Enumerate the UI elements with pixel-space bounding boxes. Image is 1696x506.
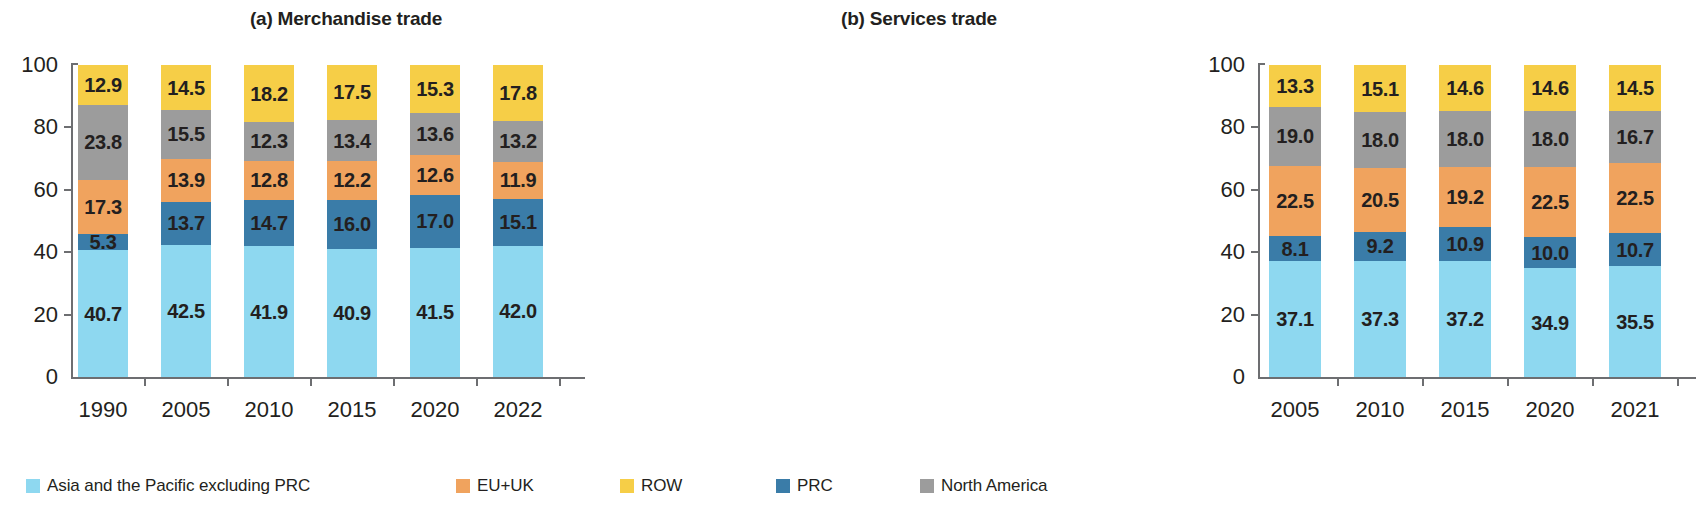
- bar-segment-eu_uk[interactable]: 12.2: [327, 161, 377, 199]
- bar-segment-north_america[interactable]: 13.6: [410, 113, 460, 155]
- bar-segment-ap_ex_prc[interactable]: 41.5: [410, 248, 460, 377]
- bar-segment-eu_uk[interactable]: 17.3: [78, 180, 128, 234]
- bar-segment-eu_uk[interactable]: 12.6: [410, 155, 460, 194]
- y-axis-tick: [1251, 189, 1258, 191]
- bar-segment-ap_ex_prc[interactable]: 42.5: [161, 245, 211, 377]
- bar-segment-north_america[interactable]: 16.7: [1609, 111, 1661, 163]
- legend-item-north_america[interactable]: North America: [920, 474, 1047, 498]
- bar-segment-eu_uk[interactable]: 12.8: [244, 161, 294, 201]
- x-axis-tick: [1592, 378, 1594, 386]
- bar-segment-prc[interactable]: 14.7: [244, 200, 294, 246]
- bar-segment-eu_uk[interactable]: 22.5: [1609, 163, 1661, 233]
- x-axis-line: [71, 377, 585, 379]
- bar-segment-prc[interactable]: 10.7: [1609, 233, 1661, 266]
- bar-segment-row[interactable]: 14.5: [161, 65, 211, 110]
- bar-segment-north_america[interactable]: 18.0: [1354, 112, 1406, 168]
- bar-segment-row[interactable]: 13.3: [1269, 65, 1321, 106]
- bar-segment-value-label: 9.2: [1367, 236, 1394, 256]
- bar-segment-row[interactable]: 17.5: [327, 65, 377, 120]
- x-axis-category-label: 2015: [307, 397, 397, 423]
- bar-segment-ap_ex_prc[interactable]: 35.5: [1609, 266, 1661, 377]
- bar-segment-prc[interactable]: 15.1: [493, 199, 543, 246]
- bar-segment-ap_ex_prc[interactable]: 40.7: [78, 250, 128, 377]
- y-axis-tick-label: 80: [1221, 114, 1245, 140]
- stacked-bar[interactable]: 40.916.012.213.417.52015: [327, 65, 377, 377]
- legend-item-prc[interactable]: PRC: [776, 474, 833, 498]
- bar-segment-row[interactable]: 12.9: [78, 65, 128, 105]
- bar-segment-value-label: 23.8: [84, 132, 122, 152]
- y-axis-tick-label: 100: [1208, 52, 1245, 78]
- stacked-bar[interactable]: 42.513.713.915.514.52005: [161, 65, 211, 377]
- bar-segment-north_america[interactable]: 13.4: [327, 120, 377, 162]
- legend-item-eu_uk[interactable]: EU+UK: [456, 474, 534, 498]
- bar-segment-value-label: 13.7: [167, 213, 205, 233]
- bar-segment-ap_ex_prc[interactable]: 37.3: [1354, 261, 1406, 377]
- stacked-bar[interactable]: 37.210.919.218.014.62015: [1439, 65, 1491, 377]
- bar-segment-value-label: 19.0: [1276, 126, 1314, 146]
- bar-segment-value-label: 34.9: [1531, 313, 1569, 333]
- stacked-bar[interactable]: 34.910.022.518.014.62020: [1524, 65, 1576, 377]
- bar-segment-value-label: 42.0: [499, 301, 537, 321]
- x-axis-category-label: 2010: [1334, 397, 1426, 423]
- bar-segment-north_america[interactable]: 18.0: [1439, 111, 1491, 167]
- bar-segment-row[interactable]: 15.1: [1354, 65, 1406, 112]
- bar-segment-value-label: 18.2: [250, 84, 288, 104]
- bar-segment-row[interactable]: 14.5: [1609, 65, 1661, 110]
- stacked-bar[interactable]: 41.914.712.812.318.22010: [244, 65, 294, 377]
- y-axis-tick-label: 80: [34, 114, 58, 140]
- legend-item-row[interactable]: ROW: [620, 474, 682, 498]
- bar-segment-ap_ex_prc[interactable]: 37.2: [1439, 261, 1491, 377]
- bar-segment-ap_ex_prc[interactable]: 42.0: [493, 246, 543, 377]
- bar-segment-row[interactable]: 17.8: [493, 65, 543, 121]
- bar-segment-value-label: 17.8: [499, 83, 537, 103]
- bar-segment-row[interactable]: 15.3: [410, 65, 460, 113]
- bar-segment-prc[interactable]: 5.3: [78, 234, 128, 251]
- bar-segment-value-label: 16.7: [1616, 127, 1654, 147]
- bar-segment-prc[interactable]: 8.1: [1269, 236, 1321, 261]
- bar-segment-value-label: 15.1: [1361, 79, 1399, 99]
- stacked-bar[interactable]: 37.39.220.518.015.12010: [1354, 65, 1406, 377]
- y-axis-tick: [1251, 314, 1258, 316]
- bar-segment-prc[interactable]: 16.0: [327, 200, 377, 250]
- stacked-bar[interactable]: 40.75.317.323.812.91990: [78, 65, 128, 377]
- bar-segment-eu_uk[interactable]: 11.9: [493, 162, 543, 199]
- bar-segment-north_america[interactable]: 19.0: [1269, 107, 1321, 166]
- chart-legend: Asia and the Pacific excluding PRCEU+UKR…: [0, 474, 1174, 498]
- bar-segment-value-label: 41.5: [416, 302, 454, 322]
- bar-segment-ap_ex_prc[interactable]: 41.9: [244, 246, 294, 377]
- bar-segment-north_america[interactable]: 18.0: [1524, 111, 1576, 167]
- bar-segment-value-label: 12.2: [333, 170, 371, 190]
- bar-segment-north_america[interactable]: 13.2: [493, 121, 543, 162]
- bar-segment-ap_ex_prc[interactable]: 40.9: [327, 249, 377, 377]
- bar-segment-value-label: 12.8: [250, 170, 288, 190]
- bar-segment-ap_ex_prc[interactable]: 34.9: [1524, 268, 1576, 377]
- legend-item-ap_ex_prc[interactable]: Asia and the Pacific excluding PRC: [26, 474, 310, 498]
- stacked-bar[interactable]: 42.015.111.913.217.82022: [493, 65, 543, 377]
- bar-segment-prc[interactable]: 10.0: [1524, 237, 1576, 268]
- bar-segment-eu_uk[interactable]: 19.2: [1439, 167, 1491, 227]
- bar-segment-value-label: 10.9: [1446, 234, 1484, 254]
- bar-segment-prc[interactable]: 10.9: [1439, 227, 1491, 261]
- bar-segment-eu_uk[interactable]: 13.9: [161, 159, 211, 202]
- stacked-bar[interactable]: 41.517.012.613.615.32020: [410, 65, 460, 377]
- bar-segment-ap_ex_prc[interactable]: 37.1: [1269, 261, 1321, 377]
- bar-segment-eu_uk[interactable]: 22.5: [1269, 166, 1321, 236]
- bar-segment-north_america[interactable]: 15.5: [161, 110, 211, 158]
- bar-segment-eu_uk[interactable]: 22.5: [1524, 167, 1576, 237]
- bar-segment-eu_uk[interactable]: 20.5: [1354, 168, 1406, 232]
- bar-segment-row[interactable]: 18.2: [244, 65, 294, 122]
- stacked-bar[interactable]: 37.18.122.519.013.32005: [1269, 65, 1321, 377]
- bar-segment-row[interactable]: 14.6: [1439, 65, 1491, 111]
- legend-swatch-ap_ex_prc: [26, 479, 40, 493]
- y-axis-tick-label: 40: [1221, 239, 1245, 265]
- bar-segment-north_america[interactable]: 23.8: [78, 105, 128, 179]
- bar-segment-prc[interactable]: 13.7: [161, 202, 211, 245]
- stacked-bar[interactable]: 35.510.722.516.714.52021: [1609, 65, 1661, 377]
- y-axis-top-cap: [1258, 63, 1265, 65]
- bar-segment-prc[interactable]: 9.2: [1354, 232, 1406, 261]
- bar-segment-value-label: 11.9: [500, 170, 537, 190]
- bar-segment-prc[interactable]: 17.0: [410, 195, 460, 248]
- bar-segment-north_america[interactable]: 12.3: [244, 122, 294, 160]
- bar-segment-row[interactable]: 14.6: [1524, 65, 1576, 111]
